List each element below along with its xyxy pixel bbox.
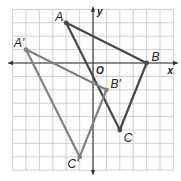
coordinate-diagram: xyOABCA'B'C': [0, 0, 181, 181]
vertex-a-prime: [24, 47, 29, 52]
vertex-label-a-prime: A': [13, 36, 25, 50]
vertex-label-c-prime: C': [68, 157, 80, 171]
vertex-label-b: B: [152, 50, 160, 64]
vertex-c: [117, 128, 122, 133]
vertex-label-c: C: [124, 131, 133, 145]
x-axis-label: x: [166, 65, 173, 76]
vertex-b: [144, 61, 149, 66]
vertex-b-prime: [104, 87, 109, 92]
vertex-label-a: A: [54, 10, 63, 24]
y-axis-label: y: [96, 6, 103, 17]
axes: [9, 7, 178, 174]
vertex-a: [64, 20, 69, 25]
coordinate-plane: xyOABCA'B'C': [0, 0, 181, 181]
origin-label: O: [96, 65, 104, 76]
vertex-label-b-prime: B': [110, 77, 121, 91]
